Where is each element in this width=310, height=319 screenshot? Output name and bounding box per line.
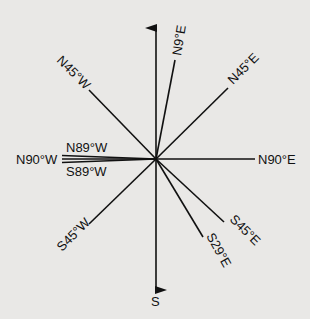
- compass-diagram: N9°E N45°E N90°E S45°E S29°E S S45°W N89…: [0, 0, 310, 319]
- label-n9e: N9°E: [169, 24, 189, 57]
- label-s29e: S29°E: [203, 230, 234, 270]
- label-n90e: N90°E: [258, 152, 296, 167]
- bearing-line-s29e: [156, 159, 203, 237]
- compass-svg: N9°E N45°E N90°E S45°E S29°E S S45°W N89…: [0, 0, 310, 319]
- label-s89w: S89°W: [66, 164, 107, 179]
- label-n45w: N45°W: [54, 53, 94, 93]
- bearing-line-s45e: [156, 159, 224, 222]
- label-n90w: N90°W: [16, 152, 58, 167]
- label-n45e: N45°E: [225, 50, 263, 88]
- label-s: S: [151, 294, 160, 309]
- label-n89w: N89°W: [66, 140, 108, 155]
- label-s45w: S45°W: [54, 214, 94, 254]
- label-s45e: S45°E: [227, 212, 264, 249]
